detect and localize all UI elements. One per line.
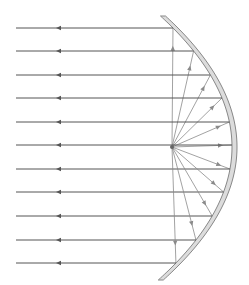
- reflected-ray-arrow-icon: [56, 190, 61, 194]
- parabolic-mirror-diagram: [0, 0, 249, 285]
- reflected-ray-arrow-icon: [56, 261, 61, 265]
- incident-ray: [172, 28, 173, 147]
- reflected-ray-arrow-icon: [56, 214, 61, 218]
- reflected-ray-arrow-icon: [56, 26, 61, 30]
- incident-ray-arrow-icon: [173, 241, 177, 246]
- reflected-ray-arrow-icon: [56, 120, 61, 124]
- incident-ray: [172, 147, 230, 169]
- incident-ray-arrow-icon: [216, 162, 221, 166]
- reflected-ray-arrow-icon: [56, 96, 61, 100]
- incident-ray-arrow-icon: [189, 221, 193, 226]
- focus-point: [170, 145, 174, 149]
- reflected-ray-arrow-icon: [56, 143, 61, 147]
- incident-ray-arrow-icon: [187, 65, 191, 70]
- reflected-ray-arrow-icon: [56, 167, 61, 171]
- reflected-ray-arrow-icon: [56, 49, 61, 53]
- diagram-canvas: [0, 0, 249, 285]
- incident-ray-arrow-icon: [202, 200, 206, 205]
- reflected-ray-arrow-icon: [56, 238, 61, 242]
- reflected-ray-arrow-icon: [56, 73, 61, 77]
- incident-ray-arrow-icon: [171, 46, 175, 51]
